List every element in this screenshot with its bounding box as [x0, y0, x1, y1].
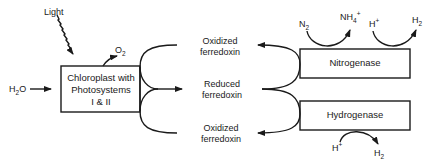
oxygen-arrow [103, 56, 117, 66]
oxidized-ferredoxin-top: Oxidized ferredoxin [190, 36, 250, 58]
nitrogenase-label: Nitrogenase [300, 57, 410, 69]
hydrogenase-label: Hydrogenase [300, 109, 410, 121]
oxidized-ferredoxin-bottom: Oxidized ferredoxin [191, 123, 251, 145]
ox-bottom-line2: ferredoxin [191, 134, 251, 145]
hydrogenase-h2-label: H2 [374, 148, 384, 159]
reduced-line1: Reduced [192, 79, 252, 90]
n2-sub: 2 [306, 24, 310, 31]
reduced-line2: ferredoxin [192, 90, 252, 101]
right-lower-join [262, 89, 300, 114]
water-o: O [19, 84, 26, 94]
hydrogenase-hplus-label: H+ [332, 143, 342, 154]
n2-label: N2 [299, 19, 309, 30]
bracket-lower-join [140, 89, 158, 111]
nitrogenase-hplus-label: H+ [369, 19, 379, 30]
oxygen-sub: 2 [122, 50, 126, 57]
ox-top-line2: ferredoxin [190, 47, 250, 58]
bracket-top-curve [140, 45, 177, 67]
nh4-nh: NH [340, 12, 353, 22]
bracket-bottom-curve [140, 111, 177, 133]
nitrogenase-h2-label: H2 [412, 15, 422, 26]
chloroplast-label: Chloroplast with Photosystems I & II [61, 72, 141, 108]
oxygen-o: O [115, 45, 122, 55]
bracket-upper-join [140, 67, 158, 89]
oxygen-label: O2 [115, 45, 126, 56]
nh4-sub: 4 [353, 17, 357, 24]
chloroplast-line1: Chloroplast with [61, 72, 141, 84]
ox-top-line1: Oxidized [190, 36, 250, 47]
nh4-sup: + [357, 10, 361, 17]
chloroplast-line3: I & II [61, 96, 141, 108]
reduced-ferredoxin: Reduced ferredoxin [192, 79, 252, 101]
n-hplus-sup: + [376, 17, 380, 24]
right-upper-join [262, 64, 300, 89]
h-h2-sub: 2 [381, 153, 385, 160]
ox-bottom-line1: Oxidized [191, 123, 251, 134]
n-h2-sub: 2 [419, 20, 423, 27]
hydrogenase-h2-arrow [340, 132, 378, 144]
chloroplast-line2: Photosystems [61, 84, 141, 96]
h-hplus-sup: + [339, 141, 343, 148]
nitrogenase-h2-arrow [373, 30, 416, 46]
nitrogen-fixation-arrow [307, 30, 350, 46]
light-arrow [57, 15, 73, 54]
ox-bottom-arrow [258, 114, 300, 133]
light-label: Light [44, 7, 64, 18]
water-label: H2O [9, 84, 26, 95]
ox-top-arrow [258, 45, 300, 64]
ammonium-label: NH4+ [340, 12, 360, 23]
